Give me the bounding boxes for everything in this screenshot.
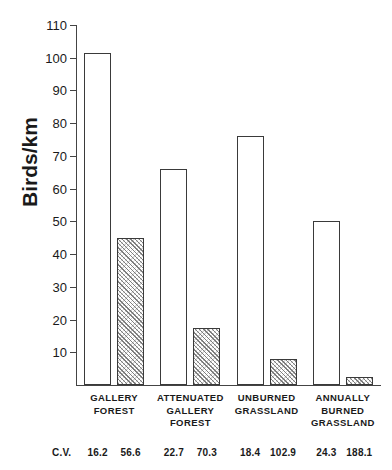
y-tick-label: 90 xyxy=(27,83,67,98)
y-tick-mark xyxy=(70,90,76,91)
category-label-3: ANNUALLYBURNEDGRASSLAND xyxy=(301,392,385,430)
cv-value-2-0: 18.4 xyxy=(233,447,267,458)
category-label-0: GALLERYFOREST xyxy=(72,392,156,417)
bar-open-2 xyxy=(237,136,264,385)
cv-value-0-1: 56.6 xyxy=(114,447,148,458)
bar-hatched-1 xyxy=(193,328,220,385)
category-label-line: ANNUALLY xyxy=(301,392,385,405)
bar-hatched-3 xyxy=(346,377,373,385)
y-tick-label: 100 xyxy=(27,50,67,65)
cv-value-1-1: 70.3 xyxy=(190,447,224,458)
y-axis-line xyxy=(76,25,77,386)
y-tick-label: 80 xyxy=(27,116,67,131)
plot-area: 102030405060708090100110 xyxy=(76,25,381,386)
category-label-line: GRASSLAND xyxy=(225,405,309,418)
category-label-line: BURNED xyxy=(301,405,385,418)
category-label-line: GRASSLAND xyxy=(301,417,385,430)
y-tick-mark xyxy=(70,25,76,26)
category-label-line: ATTENUATED xyxy=(148,392,232,405)
category-label-1: ATTENUATEDGALLERYFOREST xyxy=(148,392,232,430)
cv-annotation-row: C.V. 16.256.622.770.318.4102.924.3188.1 xyxy=(0,447,392,463)
bar-open-3 xyxy=(313,221,340,385)
y-tick-label: 110 xyxy=(27,18,67,33)
cv-value-1-0: 22.7 xyxy=(157,447,191,458)
y-tick-mark xyxy=(70,254,76,255)
cv-value-2-1: 102.9 xyxy=(266,447,300,458)
y-tick-mark xyxy=(70,123,76,124)
category-label-line: GALLERY xyxy=(72,392,156,405)
y-tick-mark xyxy=(70,189,76,190)
category-label-line: FOREST xyxy=(72,405,156,418)
cv-value-3-1: 188.1 xyxy=(342,447,376,458)
y-tick-label: 40 xyxy=(27,247,67,262)
y-tick-label: 60 xyxy=(27,181,67,196)
y-tick-label: 70 xyxy=(27,148,67,163)
y-tick-mark xyxy=(70,156,76,157)
category-label-line: UNBURNED xyxy=(225,392,309,405)
y-tick-mark xyxy=(70,320,76,321)
y-tick-mark xyxy=(70,221,76,222)
cv-value-3-0: 24.3 xyxy=(309,447,343,458)
y-tick-label: 30 xyxy=(27,279,67,294)
y-tick-label: 10 xyxy=(27,345,67,360)
y-tick-label: 20 xyxy=(27,312,67,327)
x-axis-line xyxy=(76,385,381,386)
category-label-2: UNBURNEDGRASSLAND xyxy=(225,392,309,417)
cv-label: C.V. xyxy=(52,447,71,458)
bar-chart: Birds/km 102030405060708090100110 GALLER… xyxy=(0,0,392,470)
cv-value-0-0: 16.2 xyxy=(81,447,115,458)
bar-hatched-0 xyxy=(117,238,144,385)
y-tick-mark xyxy=(70,287,76,288)
y-tick-label: 50 xyxy=(27,214,67,229)
bar-open-0 xyxy=(84,53,111,385)
y-tick-mark xyxy=(70,352,76,353)
bar-hatched-2 xyxy=(270,359,297,385)
category-label-line: GALLERY xyxy=(148,405,232,418)
x-axis-category-labels: GALLERYFORESTATTENUATEDGALLERYFORESTUNBU… xyxy=(76,392,381,440)
y-tick-mark xyxy=(70,58,76,59)
category-label-line: FOREST xyxy=(148,417,232,430)
bar-open-1 xyxy=(160,169,187,385)
